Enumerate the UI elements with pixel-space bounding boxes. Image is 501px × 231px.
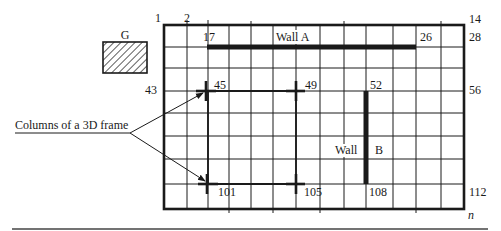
node-label-56: 56 (469, 83, 481, 97)
node-label-105: 105 (304, 185, 322, 199)
node-label-101: 101 (218, 185, 236, 199)
node-label-108: 108 (369, 185, 387, 199)
wall-b-label-right: B (375, 143, 383, 157)
column-45-marker (196, 81, 216, 101)
ground-symbol (103, 42, 147, 73)
frame-beams (208, 91, 296, 184)
node-label-43: 43 (145, 83, 157, 97)
node-label-52: 52 (370, 78, 382, 92)
node-label-2: 2 (184, 11, 190, 25)
wall-a-label: Wall A (276, 30, 310, 44)
node-label-17: 17 (203, 30, 215, 44)
node-label-45: 45 (214, 78, 226, 92)
ground-label: G (121, 28, 130, 42)
grid-lines (164, 25, 464, 209)
node-label-14: 14 (469, 12, 481, 26)
column-101-marker (198, 174, 218, 194)
node-label-112: 112 (469, 185, 487, 199)
node-label-28: 28 (469, 30, 481, 44)
annotation-arrow-lower (130, 133, 205, 181)
node-label-49: 49 (305, 78, 317, 92)
annotation-text: Columns of a 3D frame (15, 118, 128, 132)
column-105-marker (286, 174, 305, 194)
grid-border (164, 25, 464, 209)
mesh-diagram: G Columns of a 3D frame 1 2 14 28 43 56 … (0, 0, 501, 231)
node-label-n: n (468, 208, 474, 222)
node-label-26: 26 (420, 30, 432, 44)
node-label-1: 1 (155, 11, 161, 25)
column-49-marker (286, 81, 305, 101)
wall-b-label-left: Wall (335, 143, 358, 157)
